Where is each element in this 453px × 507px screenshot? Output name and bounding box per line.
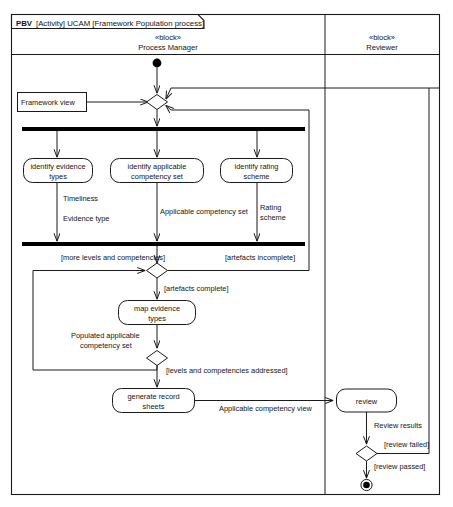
- swimlane-stereotype-process-manager: «block»: [155, 33, 181, 42]
- action-generate-record-sheets-line2: sheets: [143, 402, 165, 411]
- flow-artefacts-incomplete-return-to-merge: [166, 106, 309, 111]
- action-generate-record-sheets-line1: generate record: [127, 392, 179, 401]
- action-identify-evidence-types-line1: identify evidence: [30, 162, 85, 171]
- merge-node-start: [147, 95, 168, 110]
- action-identify-evidence-types-line2: types: [49, 172, 67, 181]
- initial-node: [153, 59, 162, 68]
- action-map-evidence-types-line2: types: [148, 314, 166, 323]
- action-identify-rating-scheme: identify rating scheme: [221, 159, 293, 183]
- flow-artefacts-incomplete-path: [168, 110, 310, 271]
- flow-label-populated-applicable-line2: competency set: [80, 341, 132, 350]
- guard-artefacts-complete: [artefacts complete]: [164, 284, 229, 293]
- flow-label-applicable-competency-view: Applicable competency view: [219, 404, 313, 413]
- diagram-title-prefix: PBV: [16, 19, 33, 28]
- fork-bar-top: [22, 127, 305, 131]
- guard-review-failed: [review failed]: [384, 440, 429, 449]
- action-map-evidence-types: map evidence types: [119, 301, 196, 325]
- action-identify-applicable-competency-set-line1: identify applicable: [128, 162, 187, 171]
- swimlane-name-reviewer: Reviewer: [366, 43, 398, 52]
- guard-more-levels-and-competencies: [more levels and competencies]: [61, 253, 165, 262]
- guard-levels-and-competencies-addressed: [levels and competencies addressed]: [166, 366, 288, 375]
- flow-label-evidence-type: Evidence type: [63, 214, 109, 223]
- action-review: review: [337, 389, 397, 412]
- flow-label-applicable-competency-set: Applicable competency set: [160, 207, 248, 216]
- swimlane-stereotype-reviewer: «block»: [369, 33, 395, 42]
- diagram-title-tab: PBV [Activity] UCAM [Framework Populatio…: [12, 15, 205, 29]
- decision-node-levels: [147, 351, 168, 366]
- flow-label-timeliness: Timeliness: [63, 194, 98, 203]
- flow-label-rating-scheme-line2: scheme: [260, 213, 286, 222]
- object-node-framework-view-label: Framework view: [21, 98, 75, 107]
- flow-review-failed-return-to-merge: [166, 88, 439, 99]
- flow-label-populated-applicable-line1: Populated applicable: [71, 331, 140, 340]
- decision-node-artefacts: [147, 263, 168, 278]
- flow-label-rating-scheme-line1: Rating: [260, 203, 281, 212]
- action-generate-record-sheets: generate record sheets: [113, 389, 195, 413]
- swimlane-header-reviewer: «block» Reviewer: [366, 33, 398, 52]
- action-identify-applicable-competency-set-line2: competency set: [131, 172, 183, 181]
- activity-final-node: [361, 479, 372, 490]
- action-review-label: review: [356, 397, 378, 406]
- action-map-evidence-types-line1: map evidence: [134, 304, 180, 313]
- activity-diagram-canvas: PBV [Activity] UCAM [Framework Populatio…: [0, 0, 453, 507]
- decision-node-review: [356, 446, 377, 461]
- diagram-title-rest: [Activity] UCAM [Framework Population pr…: [36, 19, 204, 28]
- action-identify-rating-scheme-line1: identify rating: [235, 162, 279, 171]
- flow-label-review-results: Review results: [374, 421, 422, 430]
- action-identify-applicable-competency-set: identify applicable competency set: [111, 159, 204, 183]
- guard-review-passed: [review passed]: [374, 462, 425, 471]
- swimlane-name-process-manager: Process Manager: [138, 43, 198, 52]
- guard-artefacts-incomplete: [artefacts incomplete]: [225, 253, 295, 262]
- action-identify-rating-scheme-line2: scheme: [244, 172, 270, 181]
- action-identify-evidence-types: identify evidence types: [24, 159, 93, 183]
- join-bar-bottom: [22, 242, 305, 246]
- swimlane-header-process-manager: «block» Process Manager: [138, 33, 198, 52]
- object-node-framework-view: Framework view: [18, 93, 87, 112]
